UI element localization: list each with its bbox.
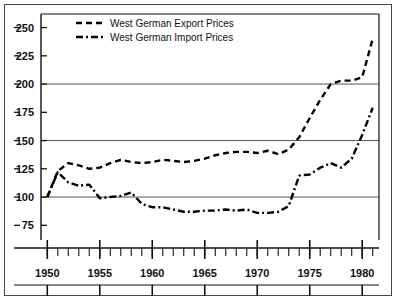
y-tick-label: 175 <box>16 106 34 118</box>
chart-figure: 75100125150175200225250 1950195519601965… <box>0 0 396 300</box>
y-tick-label: 225 <box>16 50 34 62</box>
y-tick-label: 250 <box>16 22 34 34</box>
y-tick-label: 75 <box>22 219 34 231</box>
x-tick-label: 1960 <box>140 267 164 279</box>
x-axis-tick-labels: 1950195519601965197019751980 <box>35 267 374 279</box>
legend-entry-label: West German Export Prices <box>110 18 234 29</box>
y-tick-label: 150 <box>16 135 34 147</box>
line-chart: 75100125150175200225250 1950195519601965… <box>0 0 396 300</box>
x-axis-ticks <box>47 248 372 256</box>
y-tick-label: 100 <box>16 191 34 203</box>
y-tick-label: 125 <box>16 163 34 175</box>
x-tick-label: 1955 <box>88 267 112 279</box>
x-tick-label: 1950 <box>35 267 59 279</box>
legend-entry-label: West German Import Prices <box>110 32 233 43</box>
x-tick-label: 1970 <box>245 267 269 279</box>
x-tick-label: 1980 <box>350 267 374 279</box>
x-tick-label: 1965 <box>193 267 217 279</box>
x-tick-label: 1975 <box>297 267 321 279</box>
y-tick-label: 200 <box>16 78 34 90</box>
y-axis-tick-labels: 75100125150175200225250 <box>16 22 34 232</box>
plot-background <box>41 14 379 240</box>
